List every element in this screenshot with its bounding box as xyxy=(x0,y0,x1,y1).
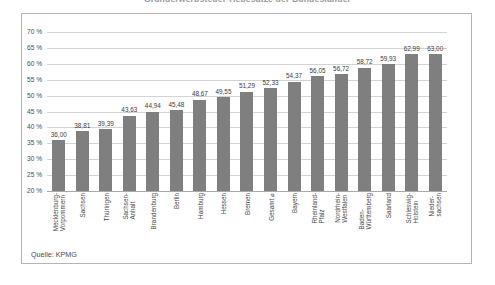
bar xyxy=(76,131,89,191)
y-axis-tick-label: 60 % xyxy=(27,61,42,68)
bar xyxy=(146,112,159,191)
bar-slot: 48,67 xyxy=(188,32,212,191)
x-label-slot: Schleswig- Holstein xyxy=(400,193,424,251)
gridline: 20 % xyxy=(47,191,447,192)
bar-value-label: 51,29 xyxy=(239,83,255,89)
x-label-slot: Berlin xyxy=(165,193,189,251)
bar-value-label: 49,55 xyxy=(215,89,231,95)
bar-value-label: 52,33 xyxy=(263,80,279,86)
plot-area: 70 %65 %60 %55 %50 %45 %40 %35 %30 %25 %… xyxy=(47,32,447,191)
bar-slot: 59,93 xyxy=(376,32,400,191)
bar-value-label: 36,00 xyxy=(51,132,67,138)
bar xyxy=(288,82,301,191)
x-axis-category-label: Baden- Württemberg xyxy=(358,193,372,229)
bar xyxy=(264,88,277,191)
x-axis-category-label: Berlin xyxy=(173,193,180,209)
bar xyxy=(170,110,183,191)
x-axis-category-label: Bremen xyxy=(243,193,250,215)
x-axis-labels: Mecklenburg- VorpommernSachsenThüringenS… xyxy=(47,193,447,251)
bar-slot: 36,00 xyxy=(47,32,71,191)
y-axis-tick-label: 45 % xyxy=(27,108,42,115)
bar xyxy=(193,100,206,191)
bar-slot: 43,63 xyxy=(118,32,142,191)
y-axis-tick-label: 25 % xyxy=(27,172,42,179)
x-axis-category-label: Hessen xyxy=(220,193,227,214)
x-label-slot: Rheinland- Pfalz xyxy=(306,193,330,251)
y-axis-tick-label: 40 % xyxy=(27,124,42,131)
bar-value-label: 43,63 xyxy=(121,107,137,113)
bar-value-label: 63,00 xyxy=(427,46,443,52)
bar-value-label: 56,72 xyxy=(333,66,349,72)
x-label-slot: Gesamt ⌀ xyxy=(259,193,283,251)
bar-slot: 51,29 xyxy=(235,32,259,191)
y-axis-tick-label: 35 % xyxy=(27,140,42,147)
bar-value-label: 62,99 xyxy=(404,46,420,52)
bar xyxy=(217,97,230,191)
x-label-slot: Baden- Württemberg xyxy=(353,193,377,251)
bar-slot: 56,72 xyxy=(329,32,353,191)
bar-slot: 38,81 xyxy=(71,32,95,191)
bar-slot: 58,72 xyxy=(353,32,377,191)
chart-page: Grunderwerbsteuer-Hebesätze der Bundeslä… xyxy=(0,0,495,285)
x-axis-category-label: Rheinland- Pfalz xyxy=(311,193,325,223)
bar xyxy=(240,92,253,192)
bar-series: 36,0038,8139,3943,6344,9445,4848,6749,55… xyxy=(47,32,447,191)
bar-value-label: 59,93 xyxy=(380,56,396,62)
bar xyxy=(382,64,395,191)
bar xyxy=(358,68,371,191)
bar-slot: 63,00 xyxy=(423,32,447,191)
bar-value-label: 39,39 xyxy=(98,121,114,127)
x-axis-category-label: Nordrhein- Westfalen xyxy=(334,193,348,223)
bar-value-label: 45,48 xyxy=(168,102,184,108)
bar-slot: 45,48 xyxy=(165,32,189,191)
x-axis-category-label: Mecklenburg- Vorpommern xyxy=(52,193,66,231)
page-headline: Grunderwerbsteuer-Hebesätze der Bundeslä… xyxy=(0,0,495,3)
x-axis-category-label: Nieder- sachsen xyxy=(428,193,442,216)
x-axis-category-label: Thüringen xyxy=(102,193,109,221)
bar-value-label: 44,94 xyxy=(145,103,161,109)
bar xyxy=(311,76,324,191)
x-axis-category-label: Brandenburg xyxy=(149,193,156,229)
y-axis-tick-label: 50 % xyxy=(27,92,42,99)
bar-slot: 49,55 xyxy=(212,32,236,191)
x-label-slot: Saarland xyxy=(376,193,400,251)
bar-slot: 39,39 xyxy=(94,32,118,191)
bar-value-label: 54,37 xyxy=(286,73,302,79)
x-label-slot: Brandenburg xyxy=(141,193,165,251)
bar-value-label: 56,05 xyxy=(310,68,326,74)
bar-value-label: 58,72 xyxy=(357,59,373,65)
x-axis-category-label: Schleswig- Holstein xyxy=(405,193,419,223)
bar xyxy=(123,116,136,191)
bar-slot: 62,99 xyxy=(400,32,424,191)
x-axis-category-label: Saarland xyxy=(385,193,392,218)
bar-slot: 44,94 xyxy=(141,32,165,191)
y-axis-tick-label: 65 % xyxy=(27,45,42,52)
bar xyxy=(405,54,418,191)
bar-slot: 56,05 xyxy=(306,32,330,191)
x-axis-category-label: Sachsen xyxy=(79,193,86,218)
x-axis-category-label: Gesamt ⌀ xyxy=(267,193,274,221)
x-label-slot: Sachsen- Anhalt xyxy=(118,193,142,251)
bar xyxy=(335,74,348,191)
bar-slot: 52,33 xyxy=(259,32,283,191)
x-label-slot: Nordrhein- Westfalen xyxy=(329,193,353,251)
x-axis-category-label: Sachsen- Anhalt xyxy=(122,193,136,220)
x-axis-category-label: Bayern xyxy=(291,193,298,213)
bar xyxy=(429,54,442,191)
x-label-slot: Nieder- sachsen xyxy=(423,193,447,251)
x-label-slot: Sachsen xyxy=(71,193,95,251)
bar xyxy=(52,140,65,191)
bar-slot: 54,37 xyxy=(282,32,306,191)
x-label-slot: Bremen xyxy=(235,193,259,251)
x-label-slot: Thüringen xyxy=(94,193,118,251)
source-note: Quelle: KPMG xyxy=(31,250,77,259)
y-axis-tick-label: 30 % xyxy=(27,156,42,163)
x-label-slot: Mecklenburg- Vorpommern xyxy=(47,193,71,251)
bar-value-label: 38,81 xyxy=(74,123,90,129)
bar-value-label: 48,67 xyxy=(192,91,208,97)
y-axis-tick-label: 70 % xyxy=(27,29,42,36)
x-label-slot: Bayern xyxy=(282,193,306,251)
x-label-slot: Hessen xyxy=(212,193,236,251)
bar xyxy=(99,129,112,191)
y-axis-tick-label: 20 % xyxy=(27,188,42,195)
